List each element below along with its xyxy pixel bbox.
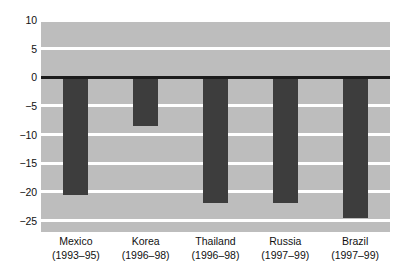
gridline (41, 47, 390, 50)
x-category-label-korea: Korea(1996–98) (122, 234, 170, 262)
bar-korea (133, 77, 158, 126)
y-tick-label: −10 (19, 129, 37, 141)
category-period: (1996–98) (122, 248, 170, 262)
x-axis: Mexico(1993–95)Korea(1996–98)Thailand(19… (41, 234, 390, 274)
y-tick-label: −25 (19, 215, 37, 227)
gridline (41, 219, 390, 222)
bar-brazil (343, 77, 368, 217)
y-tick-label: 5 (31, 43, 37, 55)
y-tick-label: 0 (31, 71, 37, 83)
category-period: (1993–95) (52, 248, 100, 262)
bar-chart-figure: 1050−5−10−15−20−25 Mexico(1993–95)Korea(… (0, 0, 404, 276)
x-category-label-russia: Russia(1997–99) (261, 234, 309, 262)
plot-area (41, 20, 390, 232)
y-axis: 1050−5−10−15−20−25 (0, 20, 37, 232)
zero-axis-line (41, 76, 390, 79)
category-period: (1997–99) (331, 248, 379, 262)
category-name: Thailand (192, 234, 240, 248)
x-category-label-brazil: Brazil(1997–99) (331, 234, 379, 262)
y-tick-label: −15 (19, 157, 37, 169)
y-tick-label: −5 (25, 100, 37, 112)
category-name: Russia (261, 234, 309, 248)
bar-thailand (203, 77, 228, 203)
y-tick-label: −20 (19, 186, 37, 198)
gridline (41, 20, 390, 22)
category-name: Korea (122, 234, 170, 248)
x-category-label-thailand: Thailand(1996–98) (192, 234, 240, 262)
category-name: Mexico (52, 234, 100, 248)
category-name: Brazil (331, 234, 379, 248)
category-period: (1997–99) (261, 248, 309, 262)
bar-russia (273, 77, 298, 203)
category-period: (1996–98) (192, 248, 240, 262)
x-category-label-mexico: Mexico(1993–95) (52, 234, 100, 262)
y-tick-label: 10 (26, 14, 37, 26)
bar-mexico (63, 77, 88, 195)
